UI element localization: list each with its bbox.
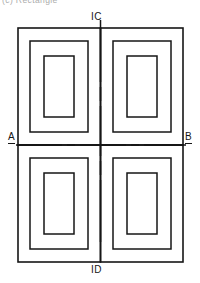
quadrant-bottom-right bbox=[101, 145, 184, 262]
centerline-label-a: A bbox=[8, 131, 15, 144]
centerline-label-id: ID bbox=[91, 264, 102, 275]
centerline-label-ic: IC bbox=[91, 11, 102, 22]
centerline-label-b: B bbox=[185, 131, 192, 144]
quadrant-top-right bbox=[101, 28, 184, 145]
quadrant-bottom-left bbox=[18, 145, 101, 262]
rectangle-figure: (c) Rectangle IC ID A B bbox=[0, 0, 200, 283]
quadrant-top-left bbox=[18, 28, 101, 145]
rectangle-drawing-svg bbox=[0, 0, 200, 283]
